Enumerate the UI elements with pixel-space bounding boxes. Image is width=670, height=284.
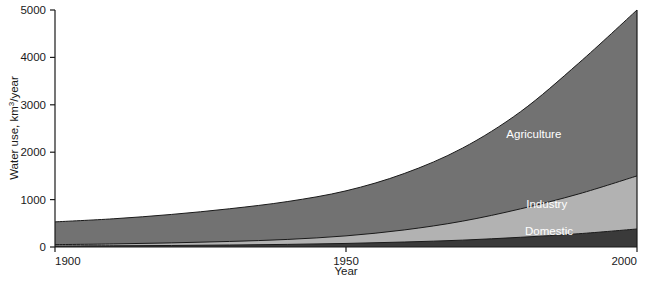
y-tick-label: 2000 [20, 146, 46, 158]
y-tick-label: 3000 [20, 99, 46, 111]
y-tick-label: 5000 [20, 4, 46, 16]
y-tick-label: 4000 [20, 51, 46, 63]
y-axis-title: Water use, km3/year [7, 76, 20, 180]
series-label-industry: Industry [526, 198, 567, 210]
chart-svg: Agriculture Industry Domestic 0100020003… [0, 0, 670, 284]
y-axis-title-prefix: Water use, km [8, 106, 20, 180]
series-label-domestic: Domestic [525, 225, 573, 237]
series-label-agriculture: Agriculture [506, 128, 561, 140]
x-axis-title: Year [334, 265, 357, 277]
svg-text:Water use, km3/year: Water use, km3/year [7, 76, 20, 180]
x-axis-ticks: 190019502000 [55, 247, 637, 267]
y-tick-label: 0 [40, 241, 46, 253]
x-tick-label: 2000 [611, 255, 637, 267]
y-tick-label: 1000 [20, 194, 46, 206]
water-use-stacked-area-chart: Agriculture Industry Domestic 0100020003… [0, 0, 670, 284]
x-tick-label: 1900 [55, 255, 81, 267]
y-axis-ticks: 010002000300040005000 [20, 4, 55, 253]
y-axis-title-suffix: /year [8, 76, 20, 102]
